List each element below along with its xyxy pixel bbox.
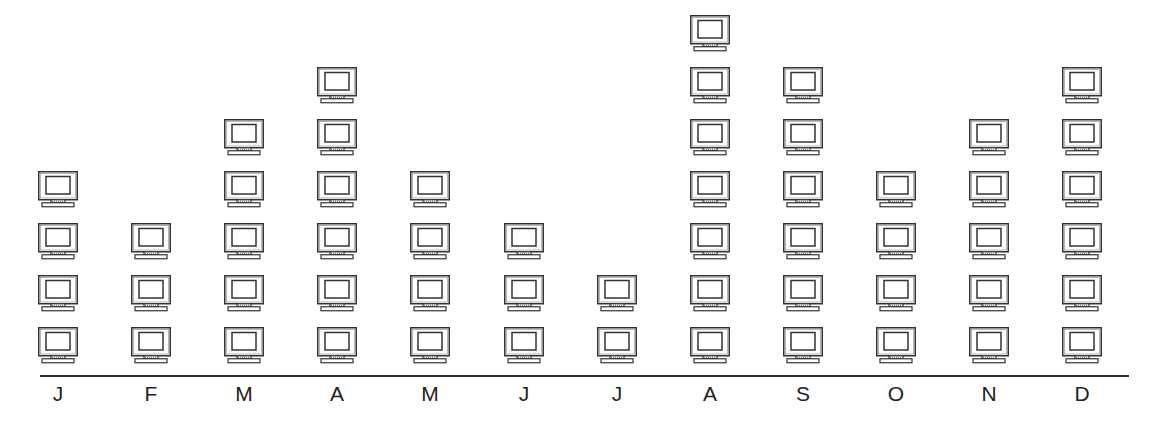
- computer-monitor-icon: [131, 223, 171, 260]
- computer-monitor-icon: [504, 327, 544, 364]
- computer-monitor-icon: [224, 119, 264, 156]
- computer-monitor-icon: [317, 223, 357, 260]
- x-tick-label: M: [400, 382, 460, 406]
- x-tick-label: F: [121, 382, 181, 406]
- computer-monitor-icon: [690, 275, 730, 312]
- computer-monitor-icon: [969, 171, 1009, 208]
- computer-monitor-icon: [224, 171, 264, 208]
- computer-monitor-icon: [969, 327, 1009, 364]
- column-10: N: [969, 0, 1029, 425]
- computer-monitor-icon: [783, 275, 823, 312]
- computer-monitor-icon: [969, 119, 1009, 156]
- x-tick-label: A: [307, 382, 367, 406]
- computer-monitor-icon: [690, 171, 730, 208]
- computer-monitor-icon: [597, 275, 637, 312]
- column-11: D: [1062, 0, 1122, 425]
- column-9: O: [876, 0, 936, 425]
- computer-monitor-icon: [317, 119, 357, 156]
- x-tick-label: N: [959, 382, 1019, 406]
- computer-monitor-icon: [410, 327, 450, 364]
- computer-monitor-icon: [317, 171, 357, 208]
- computer-monitor-icon: [690, 119, 730, 156]
- computer-monitor-icon: [38, 275, 78, 312]
- x-axis-baseline: [40, 375, 1129, 377]
- computer-monitor-icon: [38, 223, 78, 260]
- computer-monitor-icon: [876, 171, 916, 208]
- computer-monitor-icon: [690, 15, 730, 52]
- computer-monitor-icon: [969, 223, 1009, 260]
- column-3: A: [317, 0, 377, 425]
- computer-monitor-icon: [410, 223, 450, 260]
- computer-monitor-icon: [783, 223, 823, 260]
- column-2: M: [224, 0, 284, 425]
- column-8: S: [783, 0, 843, 425]
- computer-monitor-icon: [410, 171, 450, 208]
- computer-monitor-icon: [690, 327, 730, 364]
- column-0: J: [38, 0, 98, 425]
- x-tick-label: A: [680, 382, 740, 406]
- computer-monitor-icon: [783, 327, 823, 364]
- computer-monitor-icon: [317, 67, 357, 104]
- computer-monitor-icon: [131, 327, 171, 364]
- computer-monitor-icon: [690, 67, 730, 104]
- computer-monitor-icon: [597, 327, 637, 364]
- computer-monitor-icon: [504, 275, 544, 312]
- x-tick-label: S: [773, 382, 833, 406]
- computer-monitor-icon: [1062, 223, 1102, 260]
- computer-monitor-icon: [1062, 275, 1102, 312]
- x-tick-label: J: [494, 382, 554, 406]
- computer-monitor-icon: [317, 275, 357, 312]
- computer-monitor-icon: [783, 119, 823, 156]
- x-tick-label: O: [866, 382, 926, 406]
- x-tick-label: J: [28, 382, 88, 406]
- computer-monitor-icon: [690, 223, 730, 260]
- computer-monitor-icon: [1062, 119, 1102, 156]
- x-tick-label: J: [587, 382, 647, 406]
- computer-monitor-icon: [38, 171, 78, 208]
- computer-monitor-icon: [410, 275, 450, 312]
- computer-monitor-icon: [876, 327, 916, 364]
- computer-monitor-icon: [1062, 67, 1102, 104]
- column-6: J: [597, 0, 657, 425]
- computer-monitor-icon: [504, 223, 544, 260]
- column-4: M: [410, 0, 470, 425]
- pictograph-chart: JFMAMJJASOND: [0, 0, 1161, 425]
- computer-monitor-icon: [1062, 327, 1102, 364]
- computer-monitor-icon: [1062, 171, 1102, 208]
- column-7: A: [690, 0, 750, 425]
- computer-monitor-icon: [969, 275, 1009, 312]
- computer-monitor-icon: [224, 327, 264, 364]
- column-1: F: [131, 0, 191, 425]
- x-tick-label: M: [214, 382, 274, 406]
- computer-monitor-icon: [224, 223, 264, 260]
- computer-monitor-icon: [224, 275, 264, 312]
- computer-monitor-icon: [783, 171, 823, 208]
- computer-monitor-icon: [783, 67, 823, 104]
- column-5: J: [504, 0, 564, 425]
- computer-monitor-icon: [876, 275, 916, 312]
- computer-monitor-icon: [131, 275, 171, 312]
- computer-monitor-icon: [876, 223, 916, 260]
- computer-monitor-icon: [317, 327, 357, 364]
- computer-monitor-icon: [38, 327, 78, 364]
- x-tick-label: D: [1052, 382, 1112, 406]
